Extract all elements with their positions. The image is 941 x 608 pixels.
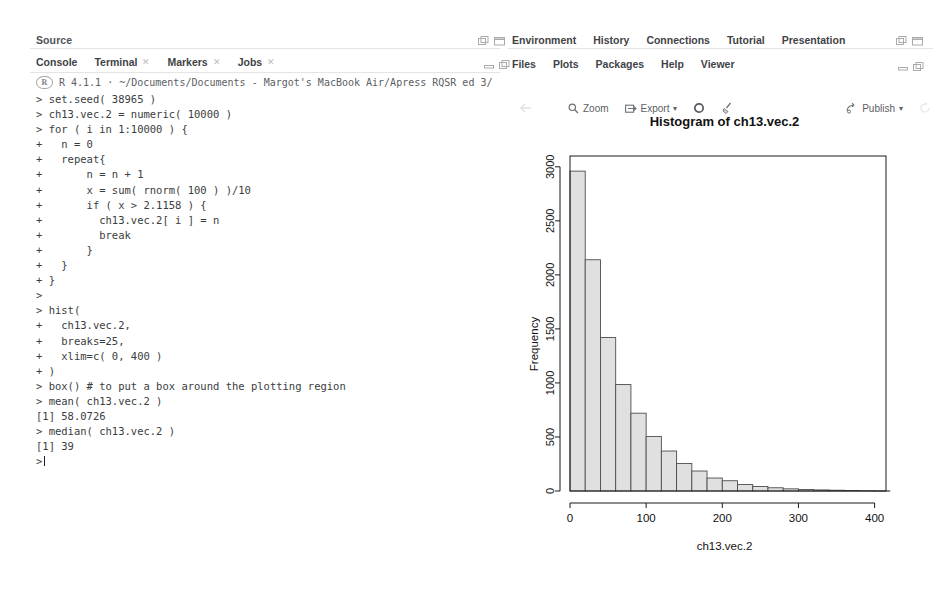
- y-axis-tick-label: 3000: [544, 155, 556, 179]
- histogram-plot: Histogram of ch13.vec.2 ch13.vec.2 Frequ…: [512, 108, 937, 573]
- tab-terminal[interactable]: Terminal ✕: [94, 56, 159, 68]
- tab-files-label: Files: [512, 58, 536, 70]
- console-output[interactable]: R R 4.1.1 · ~/Documents/Documents - Marg…: [36, 76, 506, 456]
- source-pane-label: Source: [36, 34, 72, 46]
- environment-pane-window-controls[interactable]: [896, 36, 923, 46]
- console-pane-window-controls[interactable]: [484, 60, 510, 70]
- tab-help[interactable]: Help: [661, 58, 693, 70]
- r-version-text: R 4.1.1: [59, 77, 101, 88]
- tab-plots[interactable]: Plots: [553, 58, 588, 70]
- x-axis-tick-label: 100: [637, 512, 656, 524]
- y-axis-tick-label: 2000: [544, 263, 556, 287]
- tab-environment-label: Environment: [512, 34, 576, 46]
- y-axis-tick-label: 500: [544, 428, 556, 446]
- maximize-icon[interactable]: [913, 62, 924, 72]
- minimize-icon[interactable]: [478, 36, 489, 46]
- histogram-bar: [753, 486, 768, 491]
- console-line: + break: [36, 228, 506, 243]
- x-axis-label: ch13.vec.2: [512, 540, 937, 552]
- console-line: > median( ch13.vec.2 ): [36, 424, 506, 439]
- console-line: >: [36, 288, 506, 303]
- x-axis-tick-label: 0: [567, 512, 573, 524]
- chart-title: Histogram of ch13.vec.2: [512, 114, 937, 129]
- y-axis-tick-label: 1500: [544, 317, 556, 341]
- console-line: + ch13.vec.2[ i ] = n: [36, 213, 506, 228]
- minimize-icon[interactable]: [898, 62, 908, 72]
- histogram-bar: [738, 485, 753, 491]
- y-axis-tick-label: 1000: [544, 371, 556, 395]
- source-pane-title: Source: [36, 34, 72, 46]
- console-line: + x = sum( rnorm( 100 ) )/10: [36, 183, 506, 198]
- rstudio-window: Source Console Terminal ✕ Markers ✕ Jobs…: [0, 0, 941, 608]
- tab-markers[interactable]: Markers ✕: [167, 56, 229, 68]
- tab-viewer[interactable]: Viewer: [701, 58, 744, 70]
- console-line: > mean( ch13.vec.2 ): [36, 394, 506, 409]
- console-line: + repeat{: [36, 152, 506, 167]
- tab-environment[interactable]: Environment: [512, 34, 585, 46]
- r-logo-icon: R: [36, 76, 53, 89]
- console-line: + }: [36, 243, 506, 258]
- r-version-sep: ·: [107, 77, 113, 88]
- minimize-icon[interactable]: [484, 60, 494, 70]
- tab-files[interactable]: Files: [512, 58, 545, 70]
- environment-pane-divider: [508, 48, 933, 49]
- plots-pane-tabs[interactable]: Files Plots Packages Help Viewer: [512, 58, 752, 70]
- y-axis-tick-label: 2500: [544, 209, 556, 233]
- tab-tutorial-label: Tutorial: [727, 34, 765, 46]
- tab-jobs-label: Jobs: [238, 56, 263, 68]
- tab-viewer-label: Viewer: [701, 58, 735, 70]
- x-axis-tick-label: 400: [865, 512, 884, 524]
- tab-history[interactable]: History: [593, 34, 638, 46]
- close-icon[interactable]: ✕: [267, 57, 275, 67]
- x-axis-tick-label: 300: [789, 512, 808, 524]
- histogram-bar: [661, 451, 676, 491]
- console-line: > ch13.vec.2 = numeric( 10000 ): [36, 107, 506, 122]
- console-line: > hist(: [36, 303, 506, 318]
- console-caret: [44, 456, 45, 466]
- console-line: + }: [36, 258, 506, 273]
- console-line: > for ( i in 1:10000 ) {: [36, 122, 506, 137]
- console-line: + n = 0: [36, 137, 506, 152]
- environment-pane-tabs[interactable]: Environment History Connections Tutorial…: [512, 34, 862, 46]
- tab-presentation-label: Presentation: [782, 34, 846, 46]
- tab-jobs[interactable]: Jobs ✕: [238, 56, 285, 68]
- x-axis-tick-label: 200: [713, 512, 732, 524]
- console-line: + xlim=c( 0, 400 ): [36, 349, 506, 364]
- console-line: [1] 39: [36, 439, 506, 454]
- histogram-bar: [616, 385, 631, 491]
- console-line-list[interactable]: > set.seed( 38965 )> ch13.vec.2 = numeri…: [36, 92, 506, 469]
- plots-pane-window-controls[interactable]: [898, 62, 924, 72]
- maximize-icon[interactable]: [494, 36, 505, 46]
- minimize-icon[interactable]: [896, 36, 907, 46]
- close-icon[interactable]: ✕: [142, 57, 150, 67]
- console-line: > set.seed( 38965 ): [36, 92, 506, 107]
- y-axis-tick-label: 0: [544, 488, 556, 494]
- histogram-bar: [585, 260, 600, 491]
- maximize-icon[interactable]: [499, 60, 510, 70]
- y-axis-label: Frequency: [528, 154, 540, 534]
- tab-packages-label: Packages: [596, 58, 644, 70]
- source-pane-window-controls[interactable]: [478, 36, 505, 46]
- working-directory: ~/Documents/Documents - Margot's MacBook…: [119, 77, 492, 88]
- close-icon[interactable]: ✕: [213, 57, 221, 67]
- tab-connections[interactable]: Connections: [646, 34, 719, 46]
- tab-history-label: History: [593, 34, 629, 46]
- tab-presentation[interactable]: Presentation: [782, 34, 855, 46]
- histogram-bar: [600, 338, 615, 491]
- tab-console[interactable]: Console: [36, 56, 86, 68]
- tab-terminal-label: Terminal: [94, 56, 137, 68]
- histogram-bar: [707, 478, 722, 491]
- tab-plots-label: Plots: [553, 58, 579, 70]
- console-line: [1] 58.0726: [36, 409, 506, 424]
- tab-markers-label: Markers: [167, 56, 207, 68]
- console-tabs-divider: [30, 72, 500, 73]
- tab-packages[interactable]: Packages: [596, 58, 653, 70]
- maximize-icon[interactable]: [912, 36, 923, 46]
- tab-tutorial[interactable]: Tutorial: [727, 34, 774, 46]
- histogram-bar: [646, 436, 661, 491]
- console-pane-tabs[interactable]: Console Terminal ✕ Markers ✕ Jobs ✕: [36, 56, 292, 68]
- tab-help-label: Help: [661, 58, 684, 70]
- r-version-line: R R 4.1.1 · ~/Documents/Documents - Marg…: [36, 76, 506, 89]
- console-line: + breaks=25,: [36, 334, 506, 349]
- console-line: + }: [36, 273, 506, 288]
